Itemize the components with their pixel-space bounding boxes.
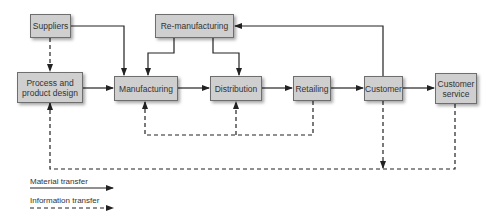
node-suppliers: Suppliers: [30, 14, 71, 38]
node-retailing: Retailing: [293, 76, 331, 101]
edge-customer-reman: [235, 26, 383, 76]
edge-retailing-feedback: [145, 101, 313, 135]
edge-service-design: [50, 103, 455, 169]
edge-reman-distribution: [213, 38, 239, 75]
legend-information-label: Information transfer: [30, 196, 99, 205]
node-distribution: Distribution: [210, 76, 262, 101]
edge-suppliers-manufacturing: [71, 26, 124, 75]
node-customer-service: Customer service: [435, 73, 477, 104]
node-customer: Customer: [364, 76, 403, 101]
node-remanufacturing: Re-manufacturing: [155, 14, 234, 38]
legend-material-label: Material transfer: [30, 177, 88, 186]
connector-lines: [0, 0, 495, 221]
node-process-design: Process and product design: [17, 72, 83, 103]
node-manufacturing: Manufacturing: [114, 76, 178, 101]
edge-reman-manufacturing: [148, 38, 174, 75]
